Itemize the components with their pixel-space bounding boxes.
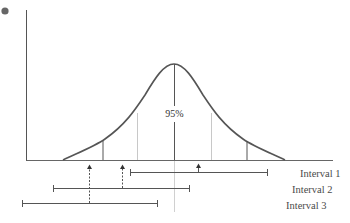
interval-3 xyxy=(22,165,158,208)
arrow-up-icon xyxy=(87,165,92,170)
interval-1-label: Interval 1 xyxy=(300,168,341,179)
confidence-interval-diagram: 95% Interval 1 Interval 2 Interval 3 xyxy=(0,0,350,223)
interval-2 xyxy=(53,165,190,193)
arrow-up-icon xyxy=(120,165,125,170)
bullet-dot-icon xyxy=(1,7,8,14)
interval-2-label: Interval 2 xyxy=(292,184,333,195)
interval-1 xyxy=(130,164,268,177)
arrow-up-icon xyxy=(196,164,201,169)
interval-3-label: Interval 3 xyxy=(286,200,327,211)
center-percent-label: 95% xyxy=(165,108,183,119)
